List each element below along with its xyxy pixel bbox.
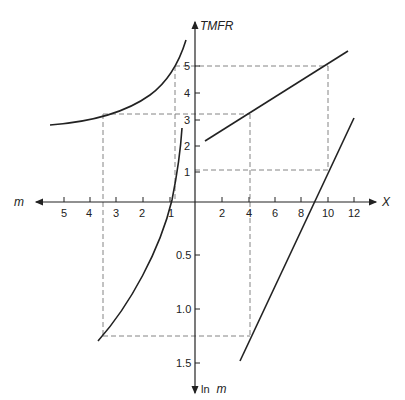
svg-text:3: 3 bbox=[113, 207, 119, 219]
curves bbox=[50, 40, 354, 361]
svg-text:4: 4 bbox=[86, 207, 92, 219]
svg-text:5: 5 bbox=[61, 207, 67, 219]
m-tick-labels: 5 4 3 2 1 bbox=[61, 207, 174, 219]
construction-lines bbox=[103, 66, 328, 336]
line-x-vs-lnm bbox=[240, 118, 354, 361]
axis-name-tmfr: TMFR bbox=[200, 19, 234, 33]
svg-text:5: 5 bbox=[184, 60, 190, 72]
svg-text:4: 4 bbox=[246, 207, 252, 219]
svg-text:2: 2 bbox=[139, 207, 145, 219]
svg-text:1.0: 1.0 bbox=[176, 303, 191, 315]
svg-text:2: 2 bbox=[219, 207, 225, 219]
svg-text:10: 10 bbox=[322, 207, 334, 219]
svg-text:12: 12 bbox=[348, 207, 360, 219]
svg-text:1: 1 bbox=[168, 207, 174, 219]
svg-text:3: 3 bbox=[184, 114, 190, 126]
svg-text:1.5: 1.5 bbox=[176, 357, 191, 369]
svg-text:4: 4 bbox=[184, 87, 190, 99]
tmfr-tick-labels: 5 4 3 2 1 bbox=[184, 60, 190, 178]
axis-name-x: X bbox=[381, 195, 391, 209]
svg-text:0.5: 0.5 bbox=[176, 249, 191, 261]
ticks bbox=[64, 66, 354, 363]
svg-text:8: 8 bbox=[298, 207, 304, 219]
curve-tmfr-vs-m bbox=[50, 40, 186, 125]
x-tick-labels: 2 4 6 8 10 12 bbox=[219, 207, 360, 219]
svg-text:1: 1 bbox=[184, 166, 190, 178]
axis-name-m: m bbox=[14, 195, 24, 209]
svg-text:6: 6 bbox=[272, 207, 278, 219]
line-tmfr-vs-x bbox=[205, 51, 348, 141]
lnm-tick-labels: 0.5 1.0 1.5 bbox=[176, 249, 191, 369]
four-quadrant-diagram: 5 4 3 2 1 5 4 3 2 1 2 4 6 8 10 12 0.5 1.… bbox=[0, 0, 405, 400]
svg-text:2: 2 bbox=[184, 140, 190, 152]
curve-lnm-vs-m bbox=[98, 128, 182, 341]
axis-name-lnm: ln m bbox=[201, 379, 227, 396]
